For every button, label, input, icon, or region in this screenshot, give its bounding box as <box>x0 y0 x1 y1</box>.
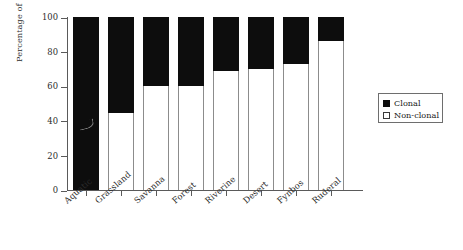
bar-grassland[interactable] <box>108 17 134 190</box>
bar-savanna[interactable] <box>143 17 169 190</box>
bar-aquatic[interactable] <box>73 17 99 190</box>
legend-label-nonclonal: Non-clonal <box>394 110 439 120</box>
bar-segment-nonclonal <box>213 71 239 190</box>
bar-forest[interactable] <box>178 17 204 190</box>
y-tick-label-40: 40 <box>24 117 58 126</box>
y-tick-label-100: 100 <box>24 13 58 22</box>
plot-area <box>67 17 362 190</box>
x-tick-savanna <box>156 191 157 196</box>
x-tick-riverine <box>226 191 227 196</box>
bar-segment-nonclonal <box>283 64 309 190</box>
x-tick-aquatic <box>86 191 87 196</box>
y-tick-label-80: 80 <box>24 48 58 57</box>
bar-segment-clonal <box>318 17 344 41</box>
bar-segment-nonclonal <box>248 69 274 190</box>
stacked-bar-chart: Percentage of species 0 20 40 60 80 100 <box>0 0 463 250</box>
y-tick-label-60: 60 <box>24 82 58 91</box>
bar-segment-clonal <box>73 17 99 190</box>
legend-label-clonal: Clonal <box>394 98 421 108</box>
bar-segment-clonal <box>283 17 309 64</box>
bar-riverine[interactable] <box>213 17 239 190</box>
y-tick-label-20: 20 <box>24 152 58 161</box>
x-tick-grassland <box>121 191 122 196</box>
bar-segment-clonal <box>248 17 274 69</box>
y-tick-label-0: 0 <box>24 186 58 195</box>
bar-segment-clonal <box>143 17 169 86</box>
bar-fynbos[interactable] <box>283 17 309 190</box>
filled-square-icon <box>383 100 390 107</box>
bar-segment-clonal <box>213 17 239 71</box>
legend-item-clonal: Clonal <box>383 97 442 109</box>
bar-ruderal[interactable] <box>318 17 344 190</box>
legend: Clonal Non-clonal <box>378 93 443 123</box>
bar-segment-nonclonal <box>143 86 169 190</box>
open-square-icon <box>383 112 390 119</box>
legend-item-nonclonal: Non-clonal <box>383 109 442 121</box>
y-tick-0 <box>61 191 67 192</box>
bar-segment-nonclonal <box>318 41 344 190</box>
bar-segment-clonal <box>178 17 204 86</box>
bar-segment-nonclonal <box>178 86 204 190</box>
bar-desert[interactable] <box>248 17 274 190</box>
bar-segment-clonal <box>108 17 134 113</box>
